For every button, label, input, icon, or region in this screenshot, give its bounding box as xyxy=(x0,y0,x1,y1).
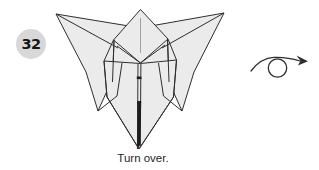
step-caption: Turn over. xyxy=(53,152,233,164)
turn-over-circle xyxy=(268,59,286,77)
center-slit xyxy=(137,64,142,149)
slit-tick xyxy=(137,77,142,80)
origami-model xyxy=(56,10,224,150)
turn-over-icon xyxy=(240,45,319,90)
origami-instruction-step: 32 xyxy=(0,0,319,170)
